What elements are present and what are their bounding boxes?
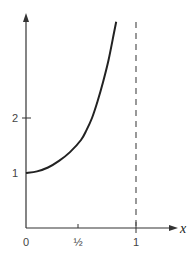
y-tick-label-2: 2 (12, 112, 18, 124)
x-axis-label: x (179, 221, 187, 236)
y-tick-label-1: 1 (12, 167, 18, 179)
y-axis-arrow-icon (23, 13, 29, 22)
x-axis-arrow-icon (169, 225, 178, 231)
x-tick-label-0: 0 (23, 236, 29, 248)
x-tick-label-1: 1 (133, 236, 139, 248)
curve-line (26, 22, 116, 173)
x-tick-label-half: ½ (73, 236, 82, 248)
chart: 0 ½ 1 1 2 x (0, 0, 190, 258)
